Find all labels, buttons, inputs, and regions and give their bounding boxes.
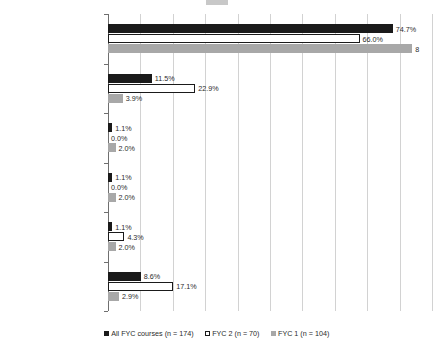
category-group: Research11.5%22.9%3.9% — [108, 64, 432, 114]
bar-value-label: 2.0% — [119, 242, 135, 251]
bar-all[interactable] — [108, 24, 393, 33]
bar-fyc1[interactable] — [108, 292, 119, 301]
legend-label: All FYC courses (n = 174) — [111, 329, 194, 338]
category-group: Specific announced topic1.1%0.0%2.0% — [108, 163, 432, 213]
category-group: Topic defined by students1.1%0.0%2.0% — [108, 113, 432, 163]
bar-fyc1[interactable] — [108, 94, 123, 103]
bar-row: 2.0% — [108, 143, 432, 152]
bar-value-label: 17.1% — [176, 282, 196, 291]
bar-value-label: 66.0% — [363, 34, 383, 43]
bar-row: 1.1% — [108, 173, 432, 182]
category-group: Topic not specified74.7%66.0%8 — [108, 14, 432, 64]
bar-row: 2.9% — [108, 292, 432, 301]
legend-swatch-icon — [104, 331, 109, 336]
bar-row: 4.3% — [108, 232, 432, 241]
legend-item[interactable]: FYC 1 (n = 104) — [271, 329, 330, 338]
y-axis-tick — [104, 64, 108, 65]
y-axis-tick — [104, 311, 108, 312]
bar-fyc2[interactable] — [108, 34, 360, 43]
bar-row: 1.1% — [108, 222, 432, 231]
bar-row: 11.5% — [108, 74, 432, 83]
bar-fyc1[interactable] — [108, 44, 412, 53]
bar-all[interactable] — [108, 173, 112, 182]
bar-value-label: 1.1% — [115, 123, 131, 132]
chart-title-sliver — [206, 0, 228, 5]
y-axis-tick — [104, 113, 108, 114]
bar-row: 0.0% — [108, 183, 432, 192]
legend-swatch-icon — [205, 331, 210, 336]
bar-row: 0.0% — [108, 133, 432, 142]
bar-row: 2.0% — [108, 193, 432, 202]
bar-fyc2[interactable] — [108, 232, 124, 241]
bar-all[interactable] — [108, 74, 152, 83]
bar-row: 3.9% — [108, 94, 432, 103]
bar-fyc1[interactable] — [108, 143, 116, 152]
bar-value-label: 22.9% — [198, 84, 218, 93]
legend-item[interactable]: FYC 2 (n = 70) — [205, 329, 260, 338]
bar-all[interactable] — [108, 222, 112, 231]
bar-value-label: 8 — [415, 44, 419, 53]
y-axis-tick — [104, 14, 108, 15]
bar-value-label: 3.9% — [126, 94, 142, 103]
plot-area: Topic not specified74.7%66.0%8Research11… — [108, 14, 432, 311]
bar-fyc2[interactable] — [108, 84, 195, 93]
legend-item[interactable]: All FYC courses (n = 174) — [104, 329, 194, 338]
bar-row: 1.1% — [108, 123, 432, 132]
y-axis-tick — [104, 163, 108, 164]
bar-row: 74.7% — [108, 24, 432, 33]
bar-all[interactable] — [108, 272, 141, 281]
bar-all[interactable] — [108, 123, 112, 132]
bar-value-label: 1.1% — [115, 173, 131, 182]
bar-row: 17.1% — [108, 282, 432, 291]
bar-value-label: 2.0% — [119, 143, 135, 152]
bar-value-label: 0.0% — [111, 133, 127, 142]
category-group: Discipline-based1.1%4.3%2.0% — [108, 212, 432, 262]
bar-row: 2.0% — [108, 242, 432, 251]
bar-value-label: 0.0% — [111, 183, 127, 192]
legend-label: FYC 2 (n = 70) — [212, 329, 259, 338]
category-group: Literature8.6%17.1%2.9% — [108, 262, 432, 312]
bar-fyc1[interactable] — [108, 242, 116, 251]
chart-legend: All FYC courses (n = 174)FYC 2 (n = 70)F… — [0, 329, 433, 338]
bar-row: 8 — [108, 44, 432, 53]
y-axis-tick — [104, 212, 108, 213]
bar-chart: Topic not specified74.7%66.0%8Research11… — [0, 0, 433, 351]
bar-fyc1[interactable] — [108, 193, 116, 202]
bar-fyc2[interactable] — [108, 282, 173, 291]
legend-swatch-icon — [271, 331, 276, 336]
legend-label: FYC 1 (n = 104) — [278, 329, 329, 338]
bar-value-label: 2.0% — [119, 193, 135, 202]
bar-value-label: 74.7% — [396, 24, 416, 33]
bar-row: 8.6% — [108, 272, 432, 281]
bar-value-label: 1.1% — [115, 222, 131, 231]
y-axis-tick — [104, 262, 108, 263]
bar-value-label: 8.6% — [144, 272, 160, 281]
bar-value-label: 2.9% — [122, 292, 138, 301]
bar-value-label: 11.5% — [155, 74, 175, 83]
bar-value-label: 4.3% — [127, 232, 143, 241]
bar-row: 66.0% — [108, 34, 432, 43]
bar-row: 22.9% — [108, 84, 432, 93]
